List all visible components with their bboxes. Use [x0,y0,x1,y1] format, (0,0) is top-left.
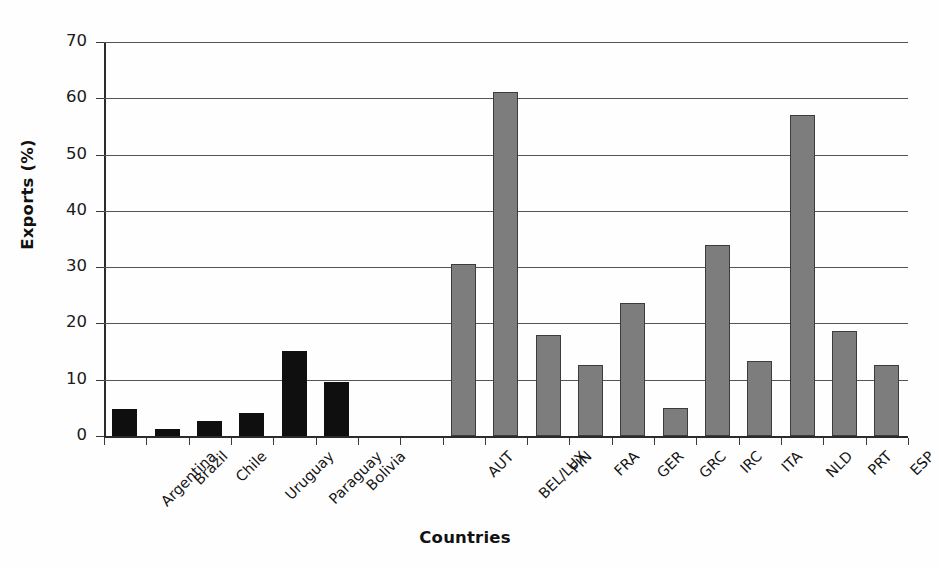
y-axis-tick [96,155,104,156]
bar [112,409,137,436]
bar [790,115,815,436]
x-axis-category-label: ESP [907,448,937,478]
y-axis-tick [96,42,104,43]
y-axis-tick [96,211,104,212]
y-axis-tick-label: 0 [47,425,87,444]
y-axis-line [104,42,106,438]
y-axis-tick-label: 40 [47,200,87,219]
bar [705,245,730,436]
y-axis-tick-label: 60 [47,87,87,106]
y-axis-tick-label: 20 [47,312,87,331]
y-axis-title: Exports (%) [18,95,37,295]
y-axis-tick-label: 10 [47,369,87,388]
y-axis-tick [96,98,104,99]
y-axis-tick [96,267,104,268]
x-axis-category-label: NLD [823,448,856,481]
x-axis-tick [273,438,274,445]
x-axis-tick [316,438,317,445]
x-axis-tick [485,438,486,445]
y-axis-tick-label: 70 [47,31,87,50]
bar [536,335,561,436]
x-axis-tick [104,438,105,445]
y-axis-tick [96,323,104,324]
x-axis-category-label: PRT [864,448,894,478]
x-axis-tick [612,438,613,445]
x-axis-category-label: Chile [232,448,269,485]
x-axis-tick [358,438,359,445]
x-axis-tick [908,438,909,445]
x-axis-title: Countries [365,528,565,547]
bar [747,361,772,436]
x-axis-tick [696,438,697,445]
y-axis-tick [96,380,104,381]
x-axis-tick [781,438,782,445]
y-axis-tick-label: 30 [47,256,87,275]
x-axis-tick [527,438,528,445]
bar [451,264,476,436]
x-axis-tick [231,438,232,445]
bar [282,351,307,436]
bar [620,303,645,436]
bar-chart-figure: Exports (%) Countries 010203040506070Arg… [0,0,939,568]
bar [155,429,180,436]
gridline [104,42,908,43]
x-axis-tick [823,438,824,445]
x-axis-tick [866,438,867,445]
x-axis-tick [654,438,655,445]
x-axis-category-label: AUT [484,448,516,480]
x-axis-tick [569,438,570,445]
bar [324,382,349,436]
x-axis-category-label: ITA [778,448,805,475]
bar [663,408,688,436]
x-axis-line [104,436,908,438]
y-axis-tick-label: 50 [47,144,87,163]
bar [239,413,264,436]
x-axis-tick [443,438,444,445]
bar [874,365,899,436]
x-axis-category-label: IRC [737,448,765,476]
x-axis-category-label: FRA [611,448,642,479]
x-axis-tick [739,438,740,445]
x-axis-tick [189,438,190,445]
y-axis-tick [96,436,104,437]
x-axis-tick [400,438,401,445]
bar [493,92,518,436]
x-axis-tick [146,438,147,445]
bar [832,331,857,436]
x-axis-category-label: GER [654,448,687,481]
bar [578,365,603,436]
bar [197,421,222,436]
x-axis-category-label: GRC [696,448,729,481]
